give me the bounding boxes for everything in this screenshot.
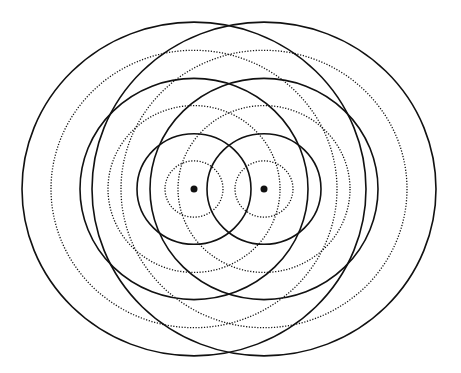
wavefront-rings (22, 22, 436, 356)
source-right-dot (261, 186, 268, 193)
source-left-dot (191, 186, 198, 193)
interference-diagram (0, 0, 461, 373)
wave-sources (191, 186, 268, 193)
